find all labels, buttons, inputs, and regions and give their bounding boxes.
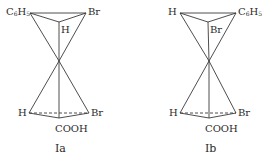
- ia-cooh-label: COOH: [55, 124, 88, 134]
- ia-bottom-right-br-label: Br: [91, 108, 103, 118]
- ib-top-right-phenyl-label: C6H5: [238, 7, 262, 17]
- ia-back-h-label: H: [61, 25, 70, 35]
- ib-bottom-left-h-label: H: [169, 108, 178, 118]
- structure-ia-bonds: [29, 13, 89, 118]
- diagram-canvas: C6H5 Br H H Br COOH Ia H C6H5 Br H Br CO…: [0, 0, 268, 158]
- ib-cooh-label: COOH: [205, 124, 238, 134]
- ia-bottom-left-h-label: H: [18, 108, 27, 118]
- structure-ib-bonds: [180, 13, 236, 118]
- ib-top-left-h-label: H: [168, 7, 177, 17]
- ib-bottom-right-br-label: Br: [238, 108, 250, 118]
- ia-caption: Ia: [55, 143, 66, 154]
- ib-caption: Ib: [205, 143, 216, 154]
- ia-top-right-br-label: Br: [88, 7, 100, 17]
- ia-top-left-phenyl-label: C6H5: [6, 7, 30, 17]
- bond-lines: [0, 0, 268, 158]
- ib-back-br-label: Br: [210, 25, 222, 35]
